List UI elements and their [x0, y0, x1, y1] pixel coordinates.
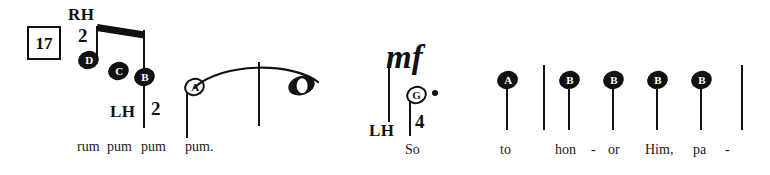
barline-right-system-end [741, 65, 743, 130]
augmentation-dot [432, 90, 438, 96]
lyric-him: Him, [645, 143, 673, 157]
notehead-letter-d: D [85, 55, 93, 66]
barline-left-system [258, 62, 260, 126]
dynamic-marking-mf: mf [386, 41, 423, 74]
left-hand-label: LH [110, 103, 136, 120]
notehead-letter-b-2: B [566, 75, 573, 86]
right-hand-label: RH [68, 6, 95, 23]
notehead-b-2: B [557, 68, 583, 92]
notehead-letter-g: G [412, 90, 421, 101]
lyric-hon: hon [555, 143, 576, 157]
notehead-g: G [404, 83, 430, 107]
note-stem-a-tied [186, 88, 188, 138]
measure-number-box: 17 [27, 26, 61, 60]
lyric-hyphen-2: - [725, 143, 730, 157]
notehead-b-5: B [689, 68, 715, 92]
lyric-pa: pa [693, 143, 706, 157]
notehead-letter-a-tied: A [191, 82, 199, 93]
notehead-a: A [495, 68, 521, 92]
lyric-to: to [500, 143, 511, 157]
notehead-b-4: B [645, 68, 671, 92]
lyric-pum-3: pum. [185, 140, 213, 154]
beam [96, 24, 145, 38]
left-hand-label-2: LH [369, 122, 395, 139]
notehead-letter-b-3: B [610, 75, 617, 86]
notehead-b-3: B [601, 68, 627, 92]
lyric-pum-2: pum [141, 140, 166, 154]
notehead-letter-b-4: B [654, 75, 661, 86]
note-stem-c [143, 30, 145, 68]
fingering-rh-first: 2 [78, 26, 88, 45]
barline-right-system-mid [543, 65, 545, 130]
notehead-whole-tied [286, 72, 318, 98]
lyric-so: So [405, 143, 420, 157]
lyric-or: or [608, 143, 620, 157]
fingering-lh-first: 2 [151, 99, 161, 118]
barline-right-system-start [388, 62, 390, 122]
lyric-hyphen-1: - [591, 143, 596, 157]
music-notation-system: 17 RH 2 D C LH 2 B A rum pum pum pum. mf [0, 0, 770, 175]
notehead-b-1: B [132, 65, 158, 89]
lyric-rum: rum [77, 140, 100, 154]
notehead-letter-c: C [115, 66, 123, 77]
notehead-letter-b-5: B [698, 75, 705, 86]
lyric-pum-1: pum [107, 140, 132, 154]
notehead-letter-a: A [504, 75, 512, 86]
notehead-letter-b-1: B [141, 72, 148, 83]
fingering-lh-second: 4 [415, 112, 425, 131]
notehead-c: C [106, 59, 132, 83]
measure-number-text: 17 [36, 35, 53, 52]
